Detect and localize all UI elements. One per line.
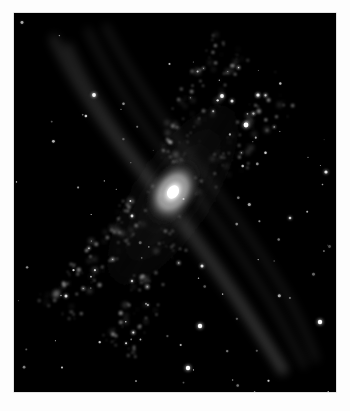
image-page [0, 0, 350, 411]
astronomical-image-plate [14, 13, 336, 392]
sky-canvas [14, 13, 336, 392]
